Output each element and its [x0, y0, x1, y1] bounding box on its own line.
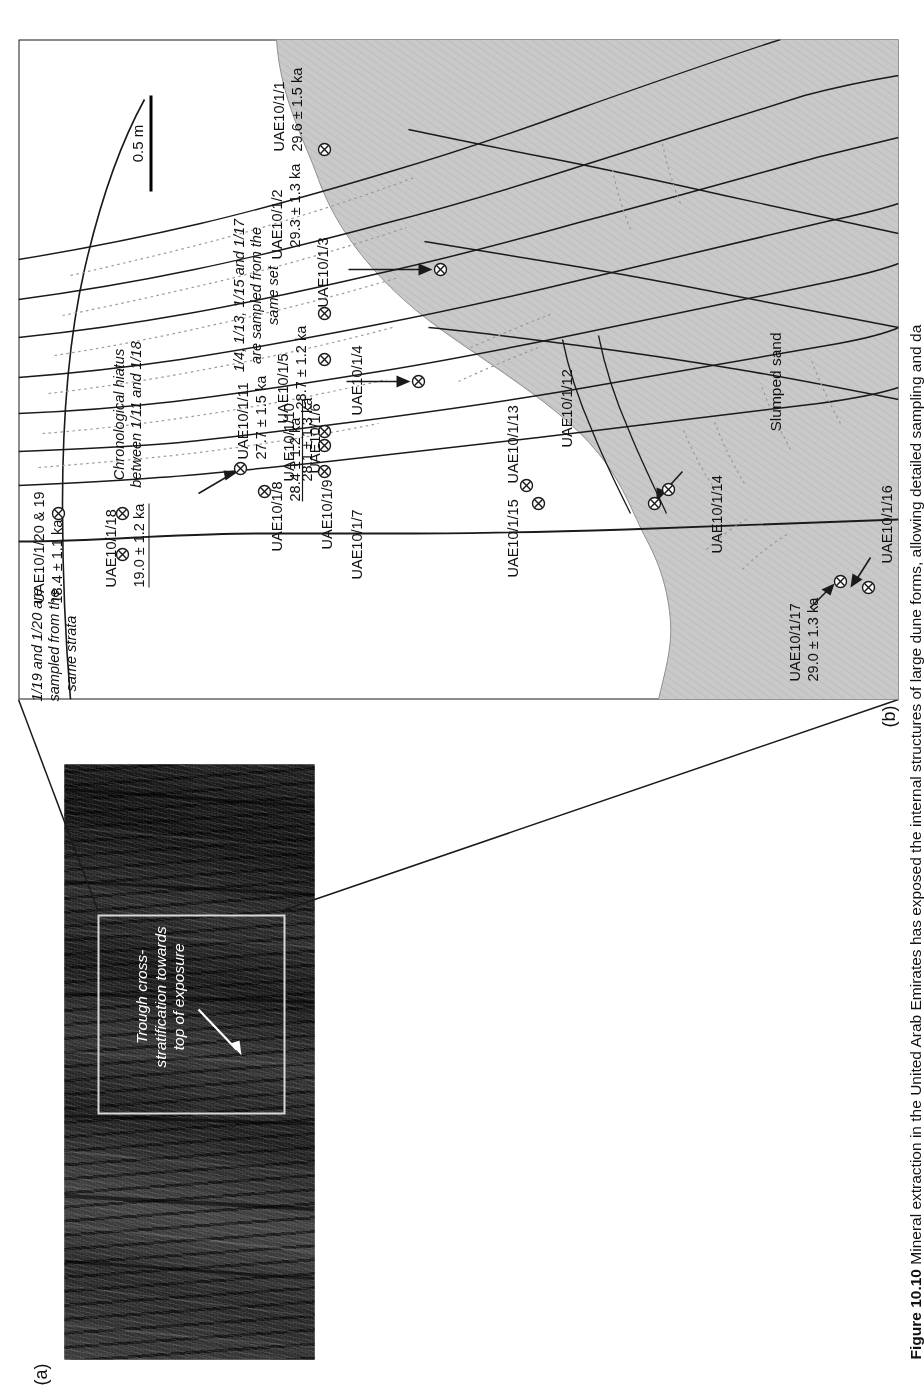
- note-hiatus-line-1: Chronological hiatus: [110, 307, 127, 521]
- note-same-strata-line-3: same strata: [62, 605, 79, 701]
- sample-label-s8: UAE10/1/8: [268, 481, 285, 551]
- sample-label-s15: UAE10/1/15: [504, 499, 521, 577]
- figure-caption-label: Figure 10.10: [906, 1269, 923, 1359]
- sample-label-s14: UAE10/1/14: [708, 475, 725, 553]
- sample-age-s1: 29.6 ± 1.5 ka: [288, 67, 305, 151]
- note-same-strata: 1/19 and 1/20 are sampled from the same …: [28, 605, 79, 701]
- scale-bar-line: [149, 95, 152, 191]
- sample-label-s16: UAE10/1/16: [878, 485, 895, 563]
- sample-label-s20-19: UAE10/1/20 & 19: [30, 491, 47, 603]
- note-same-strata-line-1: 1/19 and 1/20 are: [28, 605, 45, 701]
- sample-label-s12: UAE10/1/12: [558, 369, 575, 447]
- sample-age-s2: 29.3 ± 1.3 ka: [286, 163, 303, 247]
- sample-age-s8: 28.4 ± 1.2 ka: [286, 417, 303, 501]
- sample-label-s1: UAE10/1/1: [270, 81, 287, 151]
- panel-b-letter: (b): [878, 705, 898, 727]
- panel-a-photo: Trough cross- stratification towards top…: [64, 764, 314, 1359]
- note-hiatus-line-2: between 1/11 and 1/18: [127, 307, 144, 521]
- note-chronological-hiatus: Chronological hiatus between 1/11 and 1/…: [110, 307, 144, 521]
- scale-bar: 0.5 m: [128, 95, 152, 191]
- sample-age-s5: 28.7 ± 1.2 ka: [292, 325, 309, 409]
- sample-label-s13: UAE10/1/13: [504, 405, 521, 483]
- note-same-set-line-1: 1/4, 1/13, 1/15 and 1/17: [230, 191, 247, 399]
- note-same-set-line-2: are sampled from the: [247, 191, 264, 399]
- panel-b-section-drawing: UAE10/1/20 & 19 18.4 ± 1.1 ka UAE10/1/18…: [18, 39, 898, 699]
- sample-label-s7: UAE10/1/7: [348, 509, 365, 579]
- figure-caption-text: Mineral extraction in the United Arab Em…: [906, 324, 923, 1264]
- photo-annotation-line-1: Trough cross-: [132, 926, 151, 1067]
- slumped-sand-label: Slumped sand: [766, 332, 784, 431]
- photo-annotation: Trough cross- stratification towards top…: [132, 926, 188, 1067]
- sample-label-s9: UAE10/1/9: [318, 479, 335, 549]
- photo-annotation-line-2: stratification towards: [151, 926, 170, 1067]
- panel-a-letter: (a): [30, 1363, 50, 1385]
- figure-caption: Figure 10.10 Mineral extraction in the U…: [905, 19, 924, 1359]
- sample-age-s17: 29.0 ± 1.3 ka: [804, 597, 821, 681]
- sample-label-s2: UAE10/1/2: [268, 189, 285, 259]
- sample-label-s4: UAE10/1/4: [348, 345, 365, 415]
- sample-label-s6: UAE10/1/6: [306, 403, 323, 473]
- sample-label-s5: UAE10/1/5: [274, 353, 291, 423]
- photo-inset-highlight-box: [97, 914, 285, 1114]
- sample-label-s17: UAE10/1/17: [786, 603, 803, 681]
- sample-label-s3: UAE10/1/3: [314, 237, 331, 307]
- note-same-strata-line-2: sampled from the: [45, 605, 62, 701]
- scale-bar-label: 0.5 m: [128, 95, 145, 191]
- photo-annotation-arrow-icon: [196, 1005, 242, 1059]
- photo-annotation-line-3: top of exposure: [169, 926, 188, 1067]
